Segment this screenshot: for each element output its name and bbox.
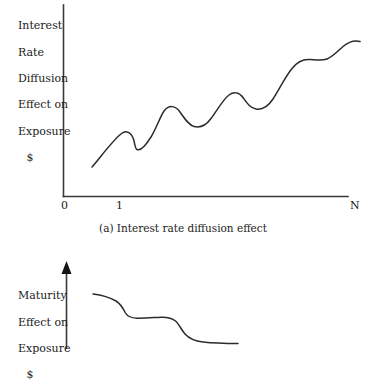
chart-b-curve (93, 294, 238, 344)
chart-a-y-axis-label-line-3: Diffusion (18, 72, 68, 85)
chart-b-y-axis-label-line-3: Exposure (18, 342, 70, 355)
chart-a-y-axis-label-line-1: Interest (18, 19, 62, 32)
chart-a-y-axis-label-line-4: Effect on (18, 98, 68, 111)
chart-b-y-axis-label-currency: $ (4, 368, 56, 381)
chart-a-xtick-n: N (350, 199, 360, 212)
chart-a-caption: (a) Interest rate diffusion effect (0, 222, 366, 234)
chart-a-group (64, 5, 361, 197)
chart-a-y-axis-label-currency: $ (4, 151, 56, 164)
chart-a-y-axis-label: Interest Rate Diffusion Effect on Exposu… (4, 6, 60, 191)
chart-a-xtick-0: 0 (61, 199, 68, 212)
chart-b-group (62, 261, 239, 349)
chart-b-y-axis-label-line-1: Maturity (18, 289, 67, 302)
chart-b-y-axis-label: Maturity Effect on Exposure $ (4, 276, 60, 384)
chart-b-y-axis-arrow-icon (62, 261, 72, 274)
chart-a-curve (92, 41, 360, 167)
chart-a-y-axis-label-line-2: Rate (18, 46, 44, 59)
chart-b-y-axis-label-line-2: Effect on (18, 316, 68, 329)
chart-a-y-axis-label-line-5: Exposure (18, 125, 70, 138)
chart-a-xtick-1: 1 (116, 199, 123, 212)
